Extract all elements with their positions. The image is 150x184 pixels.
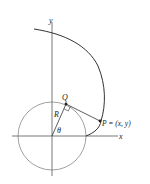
point-p — [99, 120, 102, 123]
theta-label: θ — [57, 126, 61, 135]
y-axis-label: y — [48, 16, 53, 25]
radius-label: R — [53, 110, 59, 119]
involute-diagram: y x Q P = (x, y) R θ — [0, 0, 150, 184]
point-q — [65, 103, 68, 106]
x-axis-label: x — [118, 132, 123, 141]
q-label: Q — [62, 93, 68, 102]
tangent-line — [66, 104, 100, 121]
involute-curve — [34, 29, 104, 136]
p-label: P = (x, y) — [101, 119, 131, 128]
